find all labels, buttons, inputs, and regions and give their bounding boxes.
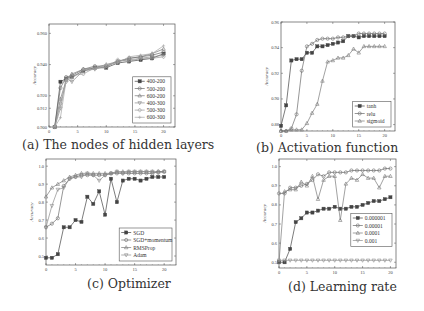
data-point-marker	[300, 217, 303, 220]
y-tick-label: 0.912	[37, 106, 47, 111]
data-point-marker	[389, 196, 392, 199]
chart-b-panel: 051015200.880.900.920.940.96Accuracytanh…	[212, 0, 424, 155]
data-point-marker	[331, 42, 334, 45]
y-tick-label: 0.920	[37, 93, 48, 98]
data-point-marker	[378, 199, 381, 202]
y-tick-label: 0.8	[38, 200, 44, 205]
x-tick-label: 5	[74, 267, 77, 272]
y-tick-label: 0.8	[271, 202, 277, 207]
legend: SGDSGD+momentumRMSPropAdam	[119, 228, 173, 261]
legend-entry-label: 0.000001	[365, 215, 386, 221]
y-axis-label: Accuracy	[264, 66, 269, 87]
data-point-marker	[344, 207, 347, 210]
data-point-marker	[98, 190, 101, 193]
y-axis-label: Accuracy	[262, 203, 267, 224]
data-point-marker	[333, 205, 336, 208]
legend-entry-label: SGD	[133, 230, 144, 236]
x-tick-label: 5	[306, 133, 309, 138]
data-point-marker	[121, 179, 124, 182]
x-tick-label: 10	[103, 267, 108, 272]
data-point-marker	[367, 201, 370, 204]
data-point-marker	[279, 124, 282, 127]
data-point-marker	[372, 199, 375, 202]
x-tick-label: 0	[45, 267, 48, 272]
y-tick-label: 0.9	[271, 183, 277, 188]
y-tick-label: 0.96	[271, 20, 280, 25]
legend: 0.0000010.000010.00010.001	[351, 214, 392, 247]
y-tick-label: 0.5	[38, 254, 44, 259]
x-tick-label: 20	[388, 270, 393, 275]
y-tick-label: 0.5	[271, 260, 277, 265]
data-point-marker	[115, 201, 118, 204]
data-point-marker	[305, 211, 308, 214]
legend: 400-200500-200600-200400-300500-300600-3…	[133, 77, 171, 123]
data-point-marker	[311, 211, 314, 214]
y-tick-label: 0.9	[38, 182, 44, 187]
data-point-marker	[336, 41, 339, 44]
chart-c-caption: (c) Optimizer	[87, 276, 171, 291]
data-point-marker	[44, 256, 47, 259]
x-tick-label: 10	[331, 133, 336, 138]
y-tick-label: 0.960	[37, 31, 48, 36]
y-tick-label: 0.94	[271, 45, 280, 50]
legend-entry-label: 0.001	[365, 238, 378, 244]
data-point-marker	[139, 179, 142, 182]
data-point-marker	[316, 209, 319, 212]
x-tick-label: 10	[104, 129, 109, 134]
y-axis-label: Accuracy	[32, 65, 37, 86]
y-tick-label: 0.92	[271, 71, 279, 76]
legend-entry-label: Adam	[133, 252, 147, 258]
data-point-marker	[285, 104, 288, 107]
data-point-marker	[138, 80, 141, 83]
data-point-marker	[162, 47, 166, 50]
x-tick-label: 15	[133, 129, 138, 134]
chart-a-panel: 051015200.9000.9120.9200.9400.960Accurac…	[0, 0, 212, 155]
data-point-marker	[358, 104, 361, 107]
x-tick-label: 0	[278, 270, 281, 275]
data-point-marker	[357, 36, 360, 39]
data-point-marker	[342, 40, 345, 43]
legend-entry-label: 400-200	[147, 78, 166, 84]
legend-entry-label: 600-300	[147, 114, 166, 120]
data-point-marker	[80, 220, 83, 223]
x-tick-label: 20	[161, 129, 166, 134]
chart-d-plot: 051015200.50.60.70.80.91.0Accuracy0.0000…	[212, 155, 424, 280]
legend-entry-label: 0.0001	[365, 230, 380, 236]
chart-b-caption: (b) Activation function	[256, 140, 398, 155]
y-axis-label: Accuracy	[29, 202, 34, 223]
data-point-marker	[355, 205, 358, 208]
x-tick-label: 20	[382, 133, 387, 138]
y-tick-label: 1.0	[38, 164, 44, 169]
data-point-marker	[289, 247, 292, 250]
y-tick-label: 1.0	[271, 164, 277, 169]
data-point-marker	[59, 116, 62, 119]
legend-entry-label: 0.00001	[365, 223, 383, 229]
data-point-marker	[50, 256, 53, 259]
data-point-marker	[322, 207, 325, 210]
x-tick-label: 5	[306, 270, 309, 275]
chart-c-panel: 051015200.50.60.70.80.91.0AccuracySGDSGD…	[0, 155, 212, 311]
legend-entry-label: 600-200	[147, 93, 166, 99]
data-point-marker	[163, 175, 166, 178]
x-tick-label: 15	[132, 267, 137, 272]
legend-entry-label: 500-300	[147, 107, 166, 113]
data-point-marker	[151, 175, 154, 178]
data-point-marker	[92, 202, 95, 205]
y-tick-label: 0.6	[271, 241, 277, 246]
y-tick-label: 0.6	[38, 236, 44, 241]
legend-entry-label: SGD+momentum	[133, 237, 173, 243]
chart-a-plot: 051015200.9000.9120.9200.9400.960Accurac…	[0, 0, 212, 135]
chart-d-panel: 051015200.50.60.70.80.91.0Accuracy0.0000…	[212, 155, 424, 311]
data-point-marker	[103, 213, 106, 216]
y-tick-label: 0.88	[271, 122, 280, 127]
chart-d-caption: (d) Learning rate	[288, 279, 397, 294]
legend-entry-label: 400-300	[147, 100, 166, 106]
data-point-marker	[127, 177, 130, 180]
chart-c-plot: 051015200.50.60.70.80.91.0AccuracySGDSGD…	[0, 155, 212, 280]
chart-b-plot: 051015200.880.900.920.940.96Accuracytanh…	[212, 0, 424, 140]
x-tick-label: 0	[280, 133, 283, 138]
data-point-marker	[145, 177, 148, 180]
data-point-marker	[321, 45, 324, 48]
data-point-marker	[361, 203, 364, 206]
y-tick-label: 0.900	[37, 125, 48, 130]
